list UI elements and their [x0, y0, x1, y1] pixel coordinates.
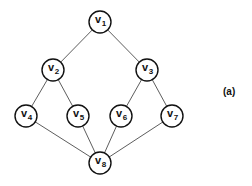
graph-svg: v1v2v3v4v5v6v7v8 — [0, 0, 252, 186]
node-v7: v7 — [161, 105, 183, 127]
node-v6: v6 — [110, 105, 132, 127]
node-v2: v2 — [42, 59, 64, 81]
node-v4: v4 — [15, 105, 37, 127]
figure-caption: (a) — [223, 86, 235, 97]
graph-diagram: v1v2v3v4v5v6v7v8 (a) — [0, 0, 252, 186]
node-v3: v3 — [136, 59, 158, 81]
node-v1: v1 — [89, 11, 111, 33]
node-v5: v5 — [67, 105, 89, 127]
node-v8: v8 — [89, 152, 111, 174]
edges — [26, 22, 172, 163]
